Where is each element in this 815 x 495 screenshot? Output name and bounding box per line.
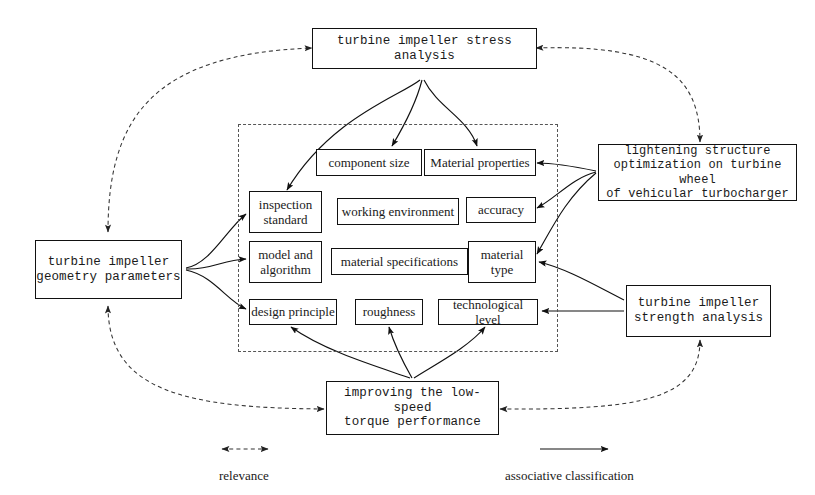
node-label-line-2: optimization on turbine wheel xyxy=(599,158,796,186)
edge-relevance-stress-lightening xyxy=(536,48,700,142)
node-label-line-2: strength analysis xyxy=(634,311,763,326)
edge-geometry-to-inspection xyxy=(186,214,246,268)
node-label-line-1: model and xyxy=(258,247,313,262)
node-label-line-2: type xyxy=(491,262,513,277)
node-improving-low-speed-torque-performance[interactable]: improving the low-speed torque performan… xyxy=(326,381,499,435)
node-working-environment[interactable]: working environment xyxy=(337,198,459,225)
node-model-and-algorithm[interactable]: model and algorithm xyxy=(249,241,322,283)
node-label: working environment xyxy=(342,204,454,219)
node-label: design principle xyxy=(251,304,334,319)
node-accuracy[interactable]: accuracy xyxy=(466,197,536,223)
node-label: Material properties xyxy=(430,155,529,170)
node-roughness[interactable]: roughness xyxy=(355,299,423,325)
node-label-line-1: improving the low-speed xyxy=(327,386,498,416)
node-material-type[interactable]: material type xyxy=(468,241,536,283)
node-label-line-1: turbine impeller xyxy=(48,255,170,270)
node-label-line-3: of vehicular turbocharger xyxy=(606,187,789,201)
node-label: component size xyxy=(328,155,409,170)
legend-associative-text: associative classification xyxy=(505,468,634,483)
node-label-line-1: turbine impeller xyxy=(638,296,760,311)
edge-geometry-to-model xyxy=(186,259,246,269)
legend-label-associative-classification: associative classification xyxy=(505,468,634,484)
node-component-size[interactable]: component size xyxy=(316,149,422,176)
node-label-line-1: lightening structure xyxy=(624,144,770,158)
node-lightening-structure-optimization[interactable]: lightening structure optimization on tur… xyxy=(598,144,797,201)
legend-relevance-text: relevance xyxy=(219,468,269,483)
node-material-properties[interactable]: Material properties xyxy=(424,149,536,176)
node-label: roughness xyxy=(363,304,416,319)
node-label-line-2: algorithm xyxy=(260,262,311,277)
node-material-specifications[interactable]: material specifications xyxy=(331,248,468,275)
node-technological-level[interactable]: technological level xyxy=(438,299,538,325)
legend-label-relevance: relevance xyxy=(219,468,269,484)
node-turbine-impeller-stress-analysis[interactable]: turbine impeller stress analysis xyxy=(312,28,537,69)
diagram-canvas: turbine impeller stress analysis turbine… xyxy=(0,0,815,495)
node-label-line-1: inspection xyxy=(259,197,312,212)
node-label-line-2: torque performance xyxy=(344,415,481,430)
edge-geometry-to-design-principle xyxy=(186,270,246,309)
node-label: material specifications xyxy=(341,254,458,269)
node-label-line-1: material xyxy=(481,247,524,262)
node-turbine-impeller-strength-analysis[interactable]: turbine impeller strength analysis xyxy=(626,285,771,337)
node-label: turbine impeller stress analysis xyxy=(313,34,536,64)
node-label: technological level xyxy=(439,297,537,328)
node-inspection-standard[interactable]: inspection standard xyxy=(249,191,322,233)
node-turbine-impeller-geometry-parameters[interactable]: turbine impeller geometry parameters xyxy=(35,240,182,299)
node-design-principle[interactable]: design principle xyxy=(249,299,337,325)
node-label: accuracy xyxy=(478,202,524,217)
node-label-line-2: standard xyxy=(263,212,307,227)
node-label-line-2: geometry parameters xyxy=(36,270,180,285)
